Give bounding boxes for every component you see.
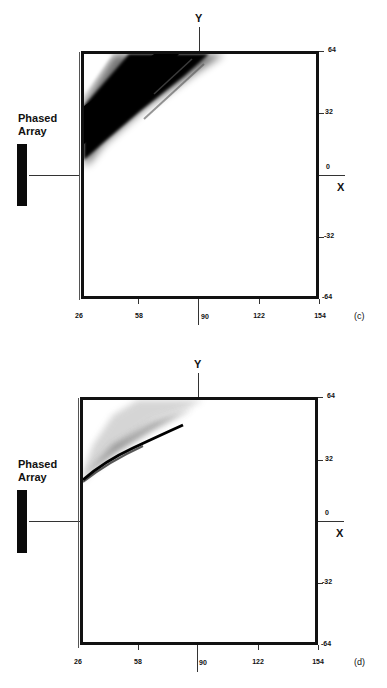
x-tick-label-26: 26 [75,312,83,319]
y-axis-line-bottom [197,645,198,672]
panel-c: Y Phased Array 64 32 0 X -32 -64 26 58 [0,0,387,344]
plot-frame-c [81,51,319,299]
x-axis-line-left [29,175,80,176]
x-tick-122 [259,299,260,304]
x-tick-label-58: 58 [134,658,142,665]
y-tick-label-neg32: -32 [322,578,332,585]
x-axis-line-left [29,521,80,522]
x-tick-label-122: 122 [252,658,264,665]
y-tick-label-neg64: -64 [321,640,331,647]
phased-array-bar [17,144,27,206]
x-tick-label-122: 122 [253,312,265,319]
x-tick-label-90: 90 [201,313,209,320]
panel-tag-c: (c) [354,311,365,321]
y-tick-label-64: 64 [327,392,335,399]
x-axis-label: X [337,181,344,193]
x-axis-line-right [318,521,344,522]
y-tick-32 [319,113,324,114]
x-tick-label-58: 58 [135,312,143,319]
x-tick-58 [138,645,139,650]
y-axis-line-top [199,27,200,52]
beam-field-c [84,54,316,296]
beam-field-d [83,400,315,642]
y-axis-label: Y [194,358,201,370]
y-axis-label: Y [195,12,202,24]
x-axis-line-right [319,175,345,176]
x-tick-58 [138,299,139,304]
panel-d: Y Phased Array 64 32 0 X -32 -64 26 58 9… [0,344,387,688]
y-tick-label-32: 32 [325,455,333,462]
plot-frame-d [80,397,318,645]
x-tick-122 [258,645,259,650]
y-axis-line-top [198,373,199,397]
y-tick-label-32: 32 [325,108,333,115]
panel-tag-d: (d) [354,657,365,667]
y-tick-label-neg32: -32 [324,232,334,239]
y-tick-64 [319,51,324,52]
x-tick-154 [318,645,319,650]
x-axis-label: X [336,527,343,539]
phased-array-bar [17,490,27,553]
x-tick-label-154: 154 [314,312,326,319]
phased-array-label: Phased Array [18,458,57,484]
y-tick-label-neg64: -64 [322,293,332,300]
x-tick-label-154: 154 [312,658,324,665]
y-tick-32 [318,460,323,461]
y-axis-line-bottom [198,299,199,325]
phased-array-label: Phased Array [18,112,57,138]
frame-inner-left-line [78,398,79,648]
x-tick-label-26: 26 [74,658,82,665]
y-tick-label-64: 64 [328,46,336,53]
y-tick-label-0: 0 [325,509,329,516]
x-tick-label-90: 90 [199,659,207,666]
x-tick-154 [319,299,320,304]
y-tick-label-0: 0 [326,163,330,170]
frame-inner-left-line [79,52,80,300]
y-tick-64 [318,397,323,398]
